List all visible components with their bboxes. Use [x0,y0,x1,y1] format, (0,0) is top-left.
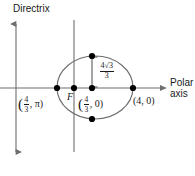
focus-label: F [67,92,73,103]
semi-latus-rectum-fraction: 4√3 3 [100,62,114,80]
semi-latus-rectum-denominator: 3 [105,72,109,81]
vertex-left-fraction: 4 3 [24,96,30,113]
vertex-center-angle: , 0) [90,99,103,110]
vertex-right-text: (4, 0) [133,96,155,107]
point-vertex-right [130,85,136,91]
polar-axis-label-line-2: axis [170,89,195,100]
figure-canvas [0,0,195,176]
vertex-left-label: ( 4 3 , π) [18,96,43,113]
semi-latus-rectum-label: 4√3 3 [99,62,114,80]
vertex-center-numerator: 4 [84,96,90,105]
point-latus-bottom [89,116,95,122]
point-vertex-left [54,85,60,91]
vertex-left-angle: , π) [30,99,43,110]
semi-latus-rectum-bracket [92,57,98,87]
vertex-center-fraction: 4 3 [84,96,90,113]
vertex-right-label: (4, 0) [133,96,155,107]
vertex-center-label: ( 4 3 , 0) [78,96,103,113]
vertex-left-open-paren: ( [18,97,23,112]
point-latus-top [89,53,95,59]
vertex-left-numerator: 4 [24,96,30,105]
polar-conic-figure: Directrix Polar axis F ( 4 3 , π) ( 4 3 … [0,0,195,176]
vertex-center-open-paren: ( [78,97,83,112]
point-center [89,85,95,91]
directrix-label: Directrix [13,4,50,15]
vertex-left-denominator: 3 [25,105,29,113]
polar-axis-label-line-1: Polar [170,78,195,89]
polar-axis-label: Polar axis [170,78,195,99]
vertex-center-denominator: 3 [85,105,89,113]
